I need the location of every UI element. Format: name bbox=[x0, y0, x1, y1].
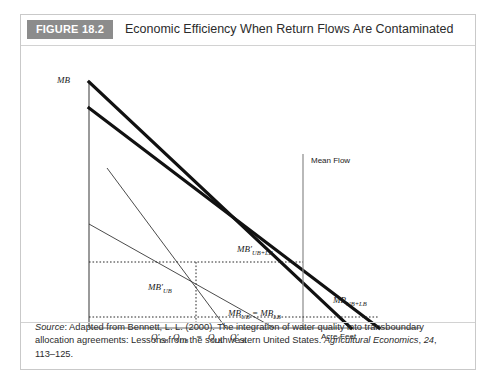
source-note: Source: Adapted from Bennett, L. L. (200… bbox=[35, 321, 459, 362]
figure-number-badge: FIGURE 18.2 bbox=[27, 20, 113, 39]
figure-container: FIGURE 18.2 Economic Efficiency When Ret… bbox=[20, 14, 476, 370]
chart-plot-area: MB Mean Flow Acre-Feet MB′UB+LB MBUB+LB … bbox=[21, 46, 477, 336]
curve-mb-prime-ub-lb bbox=[89, 82, 351, 328]
source-volume: 24 bbox=[424, 335, 434, 345]
mean-flow-label: Mean Flow bbox=[311, 156, 350, 165]
chart-svg bbox=[21, 46, 477, 336]
mb-prime-ub-label: MB′UB bbox=[148, 282, 172, 294]
figure-title: Economic Efficiency When Return Flows Ar… bbox=[125, 20, 453, 39]
mb-prime-ub-lb-label: MB′UB+LB bbox=[237, 244, 273, 256]
mb-ub-lb-label: MBUB+LB bbox=[333, 295, 367, 307]
source-label: Source bbox=[35, 322, 64, 332]
mb-axis-label: MB bbox=[57, 75, 70, 85]
figure-header: FIGURE 18.2 Economic Efficiency When Ret… bbox=[21, 15, 475, 45]
source-journal: Agricultural Economics bbox=[324, 335, 419, 345]
mb-ub-eq-mb-lb-label: MBUB = MBLB bbox=[228, 308, 281, 320]
